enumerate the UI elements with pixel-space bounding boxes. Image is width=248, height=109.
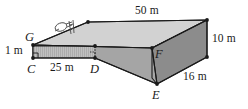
- vertex-dot-f: [150, 46, 154, 50]
- vertex-dot-rightbottom: [205, 55, 209, 59]
- vertex-label-g: G: [25, 31, 34, 44]
- vertex-label-c: C: [27, 63, 35, 76]
- vertex-dot-topright: [205, 18, 209, 22]
- dimension-label-base-length: 25 m: [50, 62, 74, 74]
- vertex-label-d: D: [90, 63, 99, 76]
- vertex-dot-d-top: [93, 44, 97, 48]
- vertex-dot-d: [93, 56, 97, 60]
- vertex-dot-e: [155, 82, 159, 86]
- vertex-dot-c: [31, 56, 35, 60]
- geometry-figure: 50 m 25 m 1 m 10 m 16 m G C D E F: [0, 0, 248, 109]
- dimension-label-depth-right: 16 m: [183, 71, 207, 83]
- figure-canvas: [0, 0, 248, 109]
- vertex-label-f: F: [155, 48, 163, 61]
- dimension-label-height-small: 1 m: [5, 45, 23, 57]
- vertex-label-e: E: [152, 89, 160, 102]
- dimension-label-height-right: 10 m: [212, 33, 236, 45]
- hatched-band: [33, 46, 95, 57]
- vertex-dot-topleft: [86, 20, 90, 24]
- dimension-label-top-length: 50 m: [135, 5, 159, 17]
